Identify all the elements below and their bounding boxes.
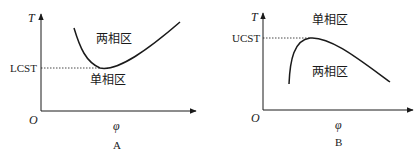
panel-a-one-phase-region: 单相区 xyxy=(90,74,126,86)
panel-b-origin-label: O xyxy=(251,112,260,124)
phase-diagrams xyxy=(0,0,420,158)
panel-a-y-axis-label: T xyxy=(28,12,35,24)
panel-a-two-phase-region: 两相区 xyxy=(96,33,132,45)
panel-a-origin-label: O xyxy=(29,114,38,126)
panel-b-ucst-label: UCST xyxy=(232,33,260,44)
panel-b-caption: B xyxy=(335,137,342,148)
panel-b-y-axis-label: T xyxy=(251,11,258,23)
panel-a-lcst-label: LCST xyxy=(10,63,37,74)
panel-a-x-axis-label: φ xyxy=(113,120,120,132)
panel-b-one-phase-region: 单相区 xyxy=(312,14,348,26)
panel-a xyxy=(41,14,196,111)
panel-b xyxy=(263,13,413,110)
panel-b-two-phase-region: 两相区 xyxy=(312,66,348,78)
panel-b-x-axis-label: φ xyxy=(335,119,342,131)
panel-a-caption: A xyxy=(113,140,121,151)
